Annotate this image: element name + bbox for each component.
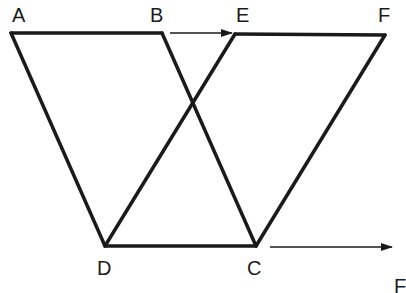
label-D: D [97,258,111,278]
segment-FC [256,35,385,246]
label-corner-partial: F [394,276,406,293]
label-B: B [150,5,163,25]
segment-EF [235,34,385,35]
segment-AD [11,33,105,246]
segment-BC [162,33,256,246]
label-A: A [12,5,25,25]
label-F: F [378,5,390,25]
label-E: E [236,5,249,25]
label-C: C [247,258,261,278]
segment-ED [105,34,235,246]
